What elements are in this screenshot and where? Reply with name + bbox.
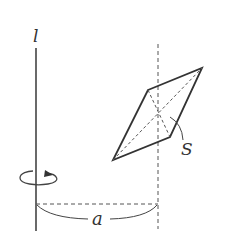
diagonal-1	[148, 90, 170, 137]
distance-brace	[37, 205, 88, 219]
rotation-diagram: l S a	[0, 0, 227, 246]
axis-label: l	[33, 26, 38, 46]
rotation-arrow-icon	[20, 171, 57, 185]
distance-label: a	[92, 208, 103, 229]
area-label: S	[181, 139, 193, 159]
distance-brace-right	[110, 205, 157, 219]
area-leader-line	[170, 117, 183, 140]
